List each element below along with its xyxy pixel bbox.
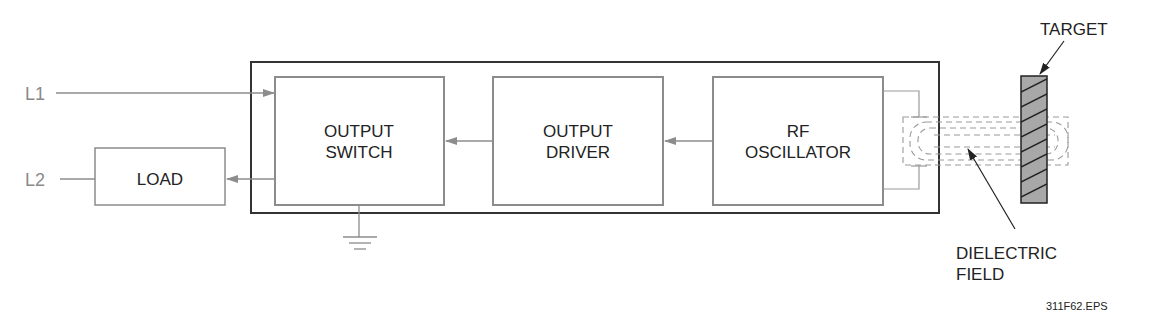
output-switch-line1: OUTPUT [324,122,394,141]
field-label-line1: DIELECTRIC [956,244,1057,263]
output-switch-line2: SWITCH [325,143,392,162]
ground-icon [343,205,377,249]
figure-caption: 311F62.EPS [1046,300,1108,312]
output-driver-line2: DRIVER [546,143,610,162]
target-callout: TARGET [1040,20,1108,74]
field-label-line2: FIELD [956,265,1004,284]
load-block: LOAD [95,148,225,205]
diagram-canvas: L1 L2 LOAD OUTPUT SWITCH OUTPUT DRIVER R… [0,0,1160,323]
rf-oscillator-line1: RF [787,122,810,141]
l1-input: L1 [25,84,274,104]
target-object [1021,76,1047,203]
load-label: LOAD [137,170,183,189]
sensing-plate-leads [883,91,927,189]
rf-oscillator-block: RF OSCILLATOR [713,77,883,205]
l1-label: L1 [25,84,45,104]
l2-label: L2 [25,170,45,190]
output-driver-block: OUTPUT DRIVER [493,77,663,205]
rf-oscillator-line2: OSCILLATOR [745,143,851,162]
target-label: TARGET [1040,20,1108,39]
output-switch-block: OUTPUT SWITCH [275,77,444,205]
l2-input: L2 [25,170,95,190]
output-driver-line1: OUTPUT [543,122,613,141]
